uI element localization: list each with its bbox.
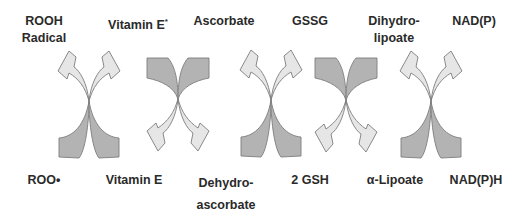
arrow-cross-3-up [240,50,302,157]
arrow-cross-1-up [58,51,120,158]
arrow-cross-5-up [400,51,462,158]
arrow-cross-2-down [147,58,209,151]
arrow-cross-4-down [315,58,377,152]
redox-arrow-diagram [0,0,516,216]
